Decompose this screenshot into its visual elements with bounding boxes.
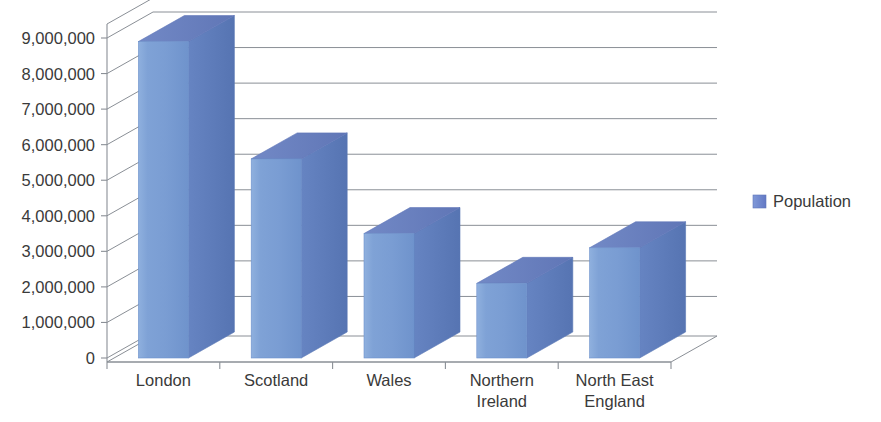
- bar-front-face-london: [138, 42, 188, 358]
- bar-side-face-scotland: [301, 133, 347, 358]
- bar-wales[interactable]: [364, 208, 460, 358]
- back-wall-top-connector: [107, 0, 153, 24]
- x-category-label-london: London: [136, 371, 191, 389]
- y-tick-label-6000000: 6,000,000: [22, 136, 95, 154]
- y-tick-label-5000000: 5,000,000: [22, 171, 95, 189]
- legend: Population: [753, 192, 851, 210]
- bar-side-face-wales: [414, 208, 460, 358]
- x-category-label-north-east-england: England: [584, 392, 645, 410]
- bar-front-face-north-east-england: [590, 248, 640, 358]
- y-tick-label-1000000: 1,000,000: [22, 313, 95, 331]
- y-axis: [101, 24, 107, 362]
- y-tick-label-7000000: 7,000,000: [22, 100, 95, 118]
- legend-label-population: Population: [773, 192, 851, 210]
- x-category-label-northern-ireland: Northern: [470, 371, 534, 389]
- bar-side-face-london: [188, 16, 234, 358]
- bars: [138, 16, 685, 358]
- x-category-label-scotland: Scotland: [244, 371, 308, 389]
- y-tick-label-0: 0: [86, 349, 95, 367]
- x-category-label-northern-ireland: Ireland: [477, 392, 527, 410]
- legend-swatch-population: [753, 195, 766, 208]
- bar-london[interactable]: [138, 16, 234, 358]
- bar-front-face-northern-ireland: [477, 283, 527, 358]
- y-tick-label-3000000: 3,000,000: [22, 242, 95, 260]
- y-tick-label-9000000: 9,000,000: [22, 29, 95, 47]
- x-category-label-wales: Wales: [366, 371, 411, 389]
- bar-front-face-wales: [364, 234, 414, 358]
- x-axis: [107, 362, 671, 369]
- grid-connector-9000000: [107, 12, 153, 38]
- y-tick-label-8000000: 8,000,000: [22, 65, 95, 83]
- y-axis-tick-labels: 01,000,0002,000,0003,000,0004,000,0005,0…: [22, 29, 95, 367]
- bar-north-east-england[interactable]: [590, 222, 686, 358]
- bar-scotland[interactable]: [251, 133, 347, 358]
- y-tick-label-2000000: 2,000,000: [22, 278, 95, 296]
- chart-canvas: 01,000,0002,000,0003,000,0004,000,0005,0…: [0, 0, 881, 422]
- bar-front-face-scotland: [251, 159, 301, 358]
- y-tick-label-4000000: 4,000,000: [22, 207, 95, 225]
- x-category-label-north-east-england: North East: [576, 371, 654, 389]
- x-axis-category-labels: LondonScotlandWalesNorthernIrelandNorth …: [136, 371, 654, 410]
- bar-chart: 01,000,0002,000,0003,000,0004,000,0005,0…: [0, 0, 881, 422]
